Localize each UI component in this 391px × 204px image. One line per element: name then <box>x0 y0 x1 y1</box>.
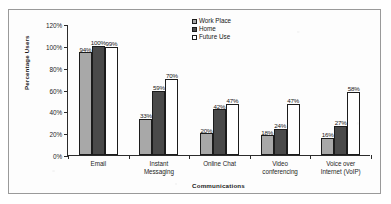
bar-home[interactable]: 59% <box>152 91 165 155</box>
x-axis-category-label: Videoconferencing <box>250 160 311 177</box>
bar-value-label: 99% <box>105 40 117 47</box>
legend-item[interactable]: Work Place <box>192 17 231 25</box>
x-axis-tick <box>189 155 190 159</box>
bar-group-bars: 20%42%47% <box>189 25 250 155</box>
y-axis-tick-label: 20% <box>50 131 63 138</box>
bar-future-use[interactable]: 99% <box>105 47 118 155</box>
y-axis-tick-label: 0% <box>53 153 62 160</box>
x-axis-category-line: Online Chat <box>189 160 250 168</box>
legend-item-label: Future Use <box>199 33 230 41</box>
x-axis-category-line: Email <box>68 160 129 168</box>
x-axis-category-line: Voice over <box>310 160 371 168</box>
bar-value-label: 16% <box>322 131 334 138</box>
bar-value-label: 47% <box>287 97 299 104</box>
bar-group-bars: 18%24%47% <box>250 25 311 155</box>
bar-work-place[interactable]: 16% <box>321 138 334 155</box>
legend-swatch-icon <box>192 27 197 32</box>
bar-group: 18%24%47%Videoconferencing <box>250 25 311 155</box>
x-axis-category-line: conferencing <box>250 168 311 176</box>
x-axis-category-line: Internet (VoIP) <box>310 168 371 176</box>
legend-swatch-icon <box>192 35 197 40</box>
x-axis-tick <box>129 155 130 159</box>
bar-value-label: 100% <box>91 39 106 46</box>
legend-item-label: Home <box>199 25 216 33</box>
x-axis-category-line: Messaging <box>129 168 190 176</box>
legend-item-label: Work Place <box>199 17 231 25</box>
bar-group: 94%100%99%Email <box>68 25 129 155</box>
bar-value-label: 24% <box>274 122 286 129</box>
bar-value-label: 59% <box>153 84 165 91</box>
y-axis-tick-label: 120% <box>46 22 62 29</box>
legend-item[interactable]: Home <box>192 25 231 33</box>
figure-frame: Percentage Users 0%20%40%60%80%100%120% … <box>8 9 381 194</box>
x-axis-tick <box>250 155 251 159</box>
bar-group: 33%59%70%InstantMessaging <box>129 25 190 155</box>
bar-value-label: 33% <box>140 112 152 119</box>
bar-work-place[interactable]: 94% <box>79 52 92 155</box>
x-axis-category-label: Email <box>68 160 129 168</box>
y-axis-tick-label: 100% <box>46 43 62 50</box>
plot-area: 0%20%40%60%80%100%120% 94%100%99%Email33… <box>67 25 370 156</box>
bar-future-use[interactable]: 47% <box>287 104 300 155</box>
legend-item[interactable]: Future Use <box>192 33 231 41</box>
bar-group: 20%42%47%Online Chat <box>189 25 250 155</box>
bar-value-label: 47% <box>227 97 239 104</box>
bar-value-label: 18% <box>261 129 273 136</box>
bar-future-use[interactable]: 47% <box>226 104 239 155</box>
bar-group: 16%27%58%Voice overInternet (VoIP) <box>310 25 371 155</box>
x-axis-category-line: Video <box>250 160 311 168</box>
bar-home[interactable]: 42% <box>213 109 226 155</box>
x-axis-category-label: InstantMessaging <box>129 160 190 177</box>
bar-group-bars: 33%59%70% <box>129 25 190 155</box>
bar-group-bars: 16%27%58% <box>310 25 371 155</box>
x-axis-category-label: Online Chat <box>189 160 250 168</box>
y-axis-tick-label: 40% <box>50 109 63 116</box>
y-axis-title: Percentage Users <box>23 35 30 90</box>
bar-value-label: 20% <box>201 127 213 134</box>
x-axis-tick <box>68 155 69 159</box>
bar-work-place[interactable]: 18% <box>261 135 274 155</box>
bar-home[interactable]: 24% <box>274 129 287 155</box>
x-axis-tick <box>371 155 372 159</box>
x-axis-title: Communications <box>67 182 370 189</box>
bar-group-bars: 94%100%99% <box>68 25 129 155</box>
y-axis-tick-label: 60% <box>50 87 63 94</box>
bar-home[interactable]: 100% <box>92 46 105 155</box>
bar-future-use[interactable]: 70% <box>165 79 178 155</box>
chart-legend: Work PlaceHomeFuture Use <box>192 17 231 41</box>
x-axis-category-label: Voice overInternet (VoIP) <box>310 160 371 177</box>
x-axis-category-line: Instant <box>129 160 190 168</box>
bar-home[interactable]: 27% <box>334 126 347 155</box>
bar-value-label: 58% <box>348 85 360 92</box>
legend-swatch-icon <box>192 19 197 24</box>
bar-value-label: 42% <box>214 103 226 110</box>
bar-work-place[interactable]: 33% <box>139 119 152 155</box>
x-axis-tick <box>310 155 311 159</box>
bar-future-use[interactable]: 58% <box>347 92 360 155</box>
bar-value-label: 27% <box>335 119 347 126</box>
bar-value-label: 94% <box>79 46 91 53</box>
y-axis-tick-label: 80% <box>50 65 63 72</box>
bar-value-label: 70% <box>166 72 178 79</box>
bar-work-place[interactable]: 20% <box>200 133 213 155</box>
